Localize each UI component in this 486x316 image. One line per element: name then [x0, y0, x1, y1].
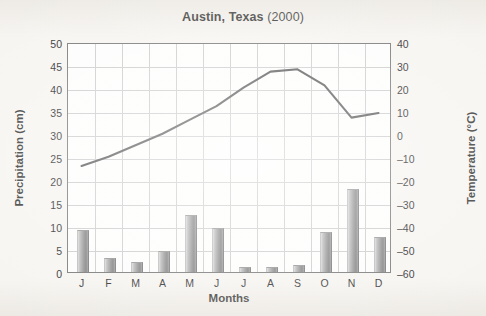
chart-title: Austin, Texas (2000): [0, 10, 486, 24]
y-right-tick-label: –20: [397, 176, 415, 188]
y-right-tick-label: 20: [397, 84, 409, 96]
x-tick-label-2: M: [131, 277, 140, 289]
x-tick-label-7: A: [267, 277, 274, 289]
chart-canvas: Austin, Texas (2000) Precipitation (cm) …: [0, 0, 486, 316]
y-left-tick-label: 10: [50, 222, 62, 234]
x-tick-label-5: J: [214, 277, 219, 289]
x-axis-title: Months: [67, 292, 391, 304]
y-left-tick-label: 45: [50, 61, 62, 73]
x-tick-label-1: F: [105, 277, 111, 289]
chart-title-location: Austin, Texas: [182, 10, 264, 24]
chart-title-year: (2000): [267, 10, 304, 24]
y-right-tick-label: –40: [397, 222, 415, 234]
x-tick-label-10: N: [348, 277, 356, 289]
y-left-tick-label: 40: [50, 84, 62, 96]
y-left-tick-label: 15: [50, 199, 62, 211]
temperature-line: [82, 69, 379, 166]
y-right-tick-label: –60: [397, 268, 415, 280]
y-right-tick-label: 30: [397, 61, 409, 73]
plot-area: 05101520253035404550 –60–50–40–30–20–100…: [67, 43, 391, 273]
x-tick-label-8: S: [294, 277, 301, 289]
x-tick-label-6: J: [241, 277, 246, 289]
y-right-tick-label: 0: [397, 130, 403, 142]
y-right-tick-label: –30: [397, 199, 415, 211]
x-tick-label-0: J: [79, 277, 84, 289]
temperature-line-layer: [68, 44, 392, 274]
y-left-tick-label: 5: [56, 245, 62, 257]
x-tick-label-11: D: [375, 277, 383, 289]
y-axis-left-title: Precipitation (cm): [13, 43, 29, 273]
y-right-tick-label: –10: [397, 153, 415, 165]
y-left-tick-label: 0: [56, 268, 62, 280]
y-right-tick-label: –50: [397, 245, 415, 257]
y-left-tick-label: 35: [50, 107, 62, 119]
y-right-tick-label: 10: [397, 107, 409, 119]
y-right-tick-label: 40: [397, 38, 409, 50]
y-left-tick-label: 50: [50, 38, 62, 50]
x-tick-label-9: O: [320, 277, 328, 289]
y-left-tick-label: 30: [50, 130, 62, 142]
x-tick-label-3: A: [159, 277, 166, 289]
x-tick-label-4: M: [185, 277, 194, 289]
y-left-tick-label: 20: [50, 176, 62, 188]
y-left-tick-label: 25: [50, 153, 62, 165]
y-axis-right-title: Temperature (°C): [465, 43, 481, 273]
